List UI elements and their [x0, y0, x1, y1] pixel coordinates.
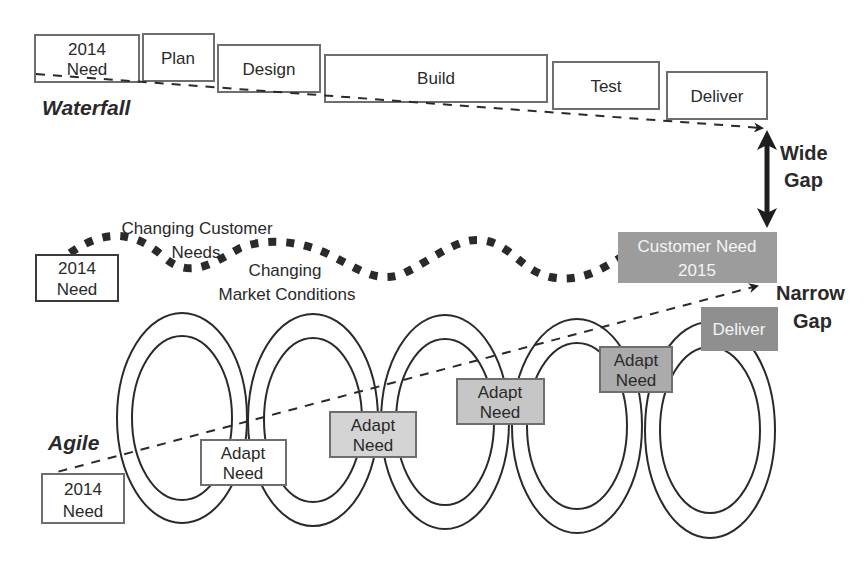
changing-customer-label: Changing Customer: [121, 219, 273, 238]
agile-label: Agile: [47, 431, 100, 454]
agile-vs-waterfall-diagram: 2014 Need Plan Design Build Test Deliver…: [0, 0, 868, 567]
waterfall-box-test: Test: [553, 62, 659, 109]
box-text: 2014: [64, 480, 102, 499]
agile-deliver-box: Deliver: [701, 307, 778, 351]
box-text: Build: [417, 69, 455, 88]
box-text: Adapt: [478, 383, 523, 402]
box-text: Design: [243, 60, 296, 79]
box-text: Adapt: [614, 351, 659, 370]
box-text: Need: [480, 403, 521, 422]
changing-needs-section: 2014 Need Changing Customer Needs Changi…: [36, 219, 777, 304]
customer-need-2015-box: Customer Need 2015: [618, 232, 777, 283]
adapt-need-box-3: Adapt Need: [457, 379, 544, 424]
box-text: Need: [616, 371, 657, 390]
wide-gap-label: Gap: [784, 169, 823, 191]
box-text: Test: [590, 77, 621, 96]
waterfall-box-plan: Plan: [143, 34, 214, 81]
adapt-need-box-2: Adapt Need: [330, 412, 416, 457]
box-text: Customer Need: [637, 237, 756, 256]
box-text: Plan: [161, 49, 195, 68]
box-text: Adapt: [351, 416, 396, 435]
box-text: Deliver: [691, 87, 744, 106]
box-text: Deliver: [713, 320, 766, 339]
changing-market-label: Changing: [249, 261, 322, 280]
adapt-need-box-1: Adapt Need: [201, 440, 286, 485]
wide-gap-indicator: Wide Gap: [757, 130, 828, 228]
box-text: Need: [57, 280, 98, 299]
wide-gap-label: Wide: [780, 142, 828, 164]
changing-customer-label: Needs: [171, 243, 220, 262]
box-text: 2014: [68, 40, 106, 59]
agile-start-box-2014: 2014 Need: [42, 474, 124, 523]
box-text: Need: [223, 464, 264, 483]
narrow-gap-label: Narrow: [776, 282, 845, 304]
agile-section: Agile 2014 Need Adapt Need Adapt Need Ad…: [42, 286, 778, 538]
iteration-loops: [117, 313, 775, 538]
waterfall-box-deliver: Deliver: [667, 72, 767, 119]
market-need-box-2014: 2014 Need: [36, 255, 118, 301]
adapt-need-box-4: Adapt Need: [600, 347, 672, 392]
changing-conditions-wave: [70, 236, 620, 279]
changing-market-label: Market Conditions: [218, 285, 355, 304]
narrow-gap-indicator: Narrow Gap: [776, 282, 845, 332]
box-text: Adapt: [221, 444, 266, 463]
waterfall-box-design: Design: [218, 45, 320, 92]
narrow-gap-label: Gap: [793, 310, 832, 332]
waterfall-box-build: Build: [325, 55, 547, 102]
box-text: Need: [353, 436, 394, 455]
box-text: Need: [63, 502, 104, 521]
waterfall-section: 2014 Need Plan Design Build Test Deliver…: [35, 34, 767, 128]
box-text: 2015: [678, 261, 716, 280]
box-text: 2014: [58, 259, 96, 278]
waterfall-box-2014-need: 2014 Need: [35, 35, 139, 82]
waterfall-label: Waterfall: [42, 96, 131, 119]
